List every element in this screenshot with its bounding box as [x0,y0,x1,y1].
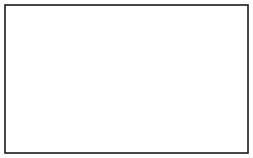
border-frame [5,5,248,153]
figure-container [0,0,253,158]
line-art-diagram [0,0,253,158]
